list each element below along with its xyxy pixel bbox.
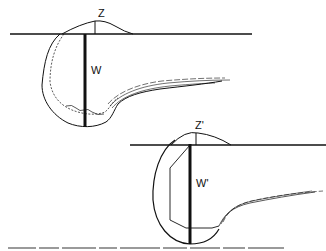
top-label-w: W (91, 64, 102, 76)
top-shaft-line-2 (108, 78, 225, 104)
bottom-inner-trapezoid (170, 145, 219, 228)
top-shaft-line-1 (110, 80, 230, 106)
diagram-canvas: Z W Z' W' (0, 0, 326, 251)
top-shaft-line-3 (112, 83, 215, 108)
top-label-z: Z (98, 7, 105, 19)
top-diagram: Z W (10, 7, 252, 127)
bottom-dome (171, 133, 231, 146)
bottom-label-z: Z' (195, 119, 204, 131)
cropped-caption (8, 247, 308, 251)
top-outer-contour (42, 34, 222, 127)
bottom-diagram: Z' W' (130, 119, 326, 244)
bottom-label-w: W' (196, 177, 208, 189)
top-bump (62, 21, 133, 34)
